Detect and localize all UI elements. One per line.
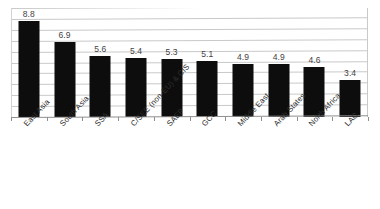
x-axis-category-labels: East AsiaSouth AsiaSSAC/SEE (non-EU) & C…: [11, 122, 368, 209]
bar-value-label: 4.6: [308, 55, 320, 65]
x-axis-tick: [368, 117, 369, 121]
bar-value-label: 4.9: [237, 52, 249, 62]
x-axis-tick: [332, 117, 333, 121]
bar[interactable]: [197, 61, 218, 117]
bar-value-label: 8.8: [23, 9, 35, 19]
bar-value-label: 5.1: [201, 49, 213, 59]
x-axis-tick: [82, 117, 83, 121]
bar-value-label: 3.4: [344, 68, 356, 78]
bar-value-label: 5.3: [166, 47, 178, 57]
x-axis-tick: [190, 117, 191, 121]
bars-layer: 8.86.95.65.45.35.14.94.94.63.4: [11, 8, 368, 117]
bar-value-label: 4.9: [273, 52, 285, 62]
bar[interactable]: [340, 80, 361, 117]
x-axis-tick: [118, 117, 119, 121]
x-axis-tick: [225, 117, 226, 121]
bar-slot: 5.1: [190, 8, 226, 117]
x-axis-tick: [11, 117, 12, 121]
x-axis-tick: [154, 117, 155, 121]
x-axis-tick: [261, 117, 262, 121]
bar[interactable]: [90, 56, 111, 117]
x-axis-tick: [47, 117, 48, 121]
bar-chart: 8.86.95.65.45.35.14.94.94.63.4 East Asia…: [0, 0, 380, 209]
bar[interactable]: [18, 21, 39, 117]
x-axis-tick: [297, 117, 298, 121]
bar-value-label: 6.9: [58, 30, 70, 40]
bar-value-label: 5.4: [130, 46, 142, 56]
bar-value-label: 5.6: [94, 44, 106, 54]
